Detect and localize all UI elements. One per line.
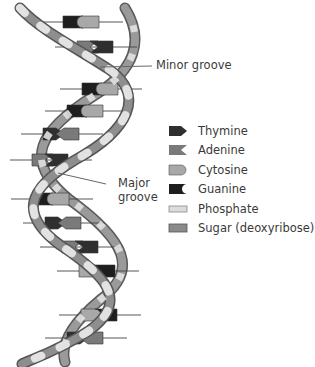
major-groove-leader — [58, 173, 106, 184]
major-groove-label-line2: groove — [118, 191, 158, 204]
backbone-strand-front — [20, 8, 129, 364]
major-groove-label-line1: Major — [118, 177, 150, 190]
legend-item-cytosine: Cytosine — [168, 160, 314, 180]
legend-item-sugar: Sugar (deoxyribose) — [168, 219, 314, 239]
legend-item-phosphate: Phosphate — [168, 199, 314, 219]
guanine-icon — [168, 183, 188, 195]
base-pair — [41, 16, 123, 28]
adenine-icon — [168, 144, 188, 156]
cytosine-icon — [168, 164, 188, 176]
base-pair — [21, 128, 103, 140]
sugar-icon — [168, 222, 188, 234]
phosphate-icon — [168, 203, 188, 215]
thymine-icon — [168, 125, 188, 137]
legend-item-guanine: Guanine — [168, 180, 314, 200]
legend-item-adenine: Adenine — [168, 141, 314, 161]
base-pair — [45, 105, 127, 117]
legend: Thymine Adenine Cytosine Guanine Phospha… — [168, 121, 314, 238]
legend-item-thymine: Thymine — [168, 121, 314, 141]
minor-groove-label: Minor groove — [156, 59, 232, 72]
